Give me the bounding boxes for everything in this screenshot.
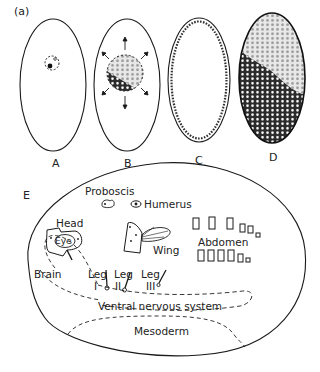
wing-label: Wing: [153, 245, 179, 256]
proboscis-label: Proboscis: [85, 186, 134, 197]
abdomen-label: Abdomen: [198, 237, 248, 248]
abdomen-segments-upper: [193, 217, 260, 237]
proboscis-icon: [102, 200, 114, 208]
figure-label: (a): [14, 6, 29, 17]
leg-2-numeral: II: [115, 281, 121, 292]
leg-3-numeral: III: [146, 281, 155, 292]
panel-d-label: D: [269, 152, 277, 163]
panel-a-egg: [20, 19, 86, 151]
nucleus-icon: [48, 64, 53, 69]
head-label: Head: [56, 218, 83, 229]
leg-1-numeral: I: [94, 281, 97, 292]
panel-b-label: B: [124, 158, 132, 169]
humerus-icon: [131, 201, 141, 207]
panel-a-label: A: [52, 158, 60, 169]
panel-d-egg: [236, 10, 310, 150]
leg-3-label: Leg: [141, 269, 160, 280]
panel-c-egg: [168, 18, 230, 142]
leg-2-label: Leg: [114, 269, 133, 280]
panel-b-egg: [94, 19, 160, 151]
eye-label: Eye: [55, 237, 72, 246]
nucleus-boundary-icon: [45, 56, 59, 70]
ventral-nervous-system-label: Ventral nervous system: [98, 301, 222, 312]
humerus-label: Humerus: [144, 199, 192, 210]
abdomen-segments-lower: [198, 250, 250, 262]
diagram-canvas: [0, 0, 320, 372]
mesoderm-label: Mesoderm: [134, 326, 189, 337]
panel-e-label: E: [23, 190, 30, 201]
panel-c-label: C: [195, 155, 203, 166]
brain-label: Brain: [34, 269, 62, 280]
leg-1-label: Leg: [88, 269, 107, 280]
